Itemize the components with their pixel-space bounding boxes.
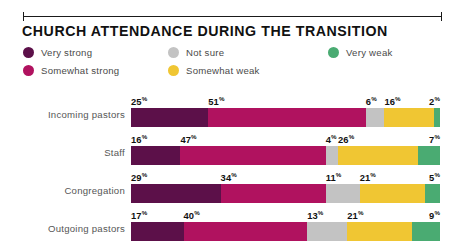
bar-segment[interactable] xyxy=(208,108,366,127)
bar-value-label: 11% xyxy=(326,172,342,183)
bar-row: Staff16%47%4%26%7% xyxy=(0,130,468,166)
bar-value-number: 16 xyxy=(131,134,142,145)
percent-sign: % xyxy=(434,171,440,178)
bar-value-label: 26% xyxy=(338,134,354,145)
bar-segment[interactable] xyxy=(307,222,347,241)
legend-item[interactable]: Somewhat weak xyxy=(168,65,260,76)
bar-value-label: 29% xyxy=(131,172,147,183)
legend-swatch-icon xyxy=(328,47,339,58)
bar-track xyxy=(131,108,440,127)
bar-value-labels: 16%47%4%26%7% xyxy=(131,130,440,146)
legend-item[interactable]: Not sure xyxy=(168,47,224,58)
bar-segment[interactable] xyxy=(184,222,308,241)
bar-segment[interactable] xyxy=(221,184,326,203)
bar-value-label: 4% xyxy=(326,134,337,145)
bar-segment[interactable] xyxy=(360,184,425,203)
bar-segment[interactable] xyxy=(418,146,440,165)
chart-legend: Very strongSomewhat strongNot sureSomewh… xyxy=(23,47,453,83)
bar-value-label: 51% xyxy=(208,96,224,107)
bar-value-number: 17 xyxy=(131,210,142,221)
percent-sign: % xyxy=(371,95,377,102)
percent-sign: % xyxy=(142,133,148,140)
bar-segment[interactable] xyxy=(131,184,221,203)
bar-segment[interactable] xyxy=(347,222,412,241)
bar-value-number: 21 xyxy=(360,172,371,183)
bar-value-label: 13% xyxy=(307,210,323,221)
bar-segment[interactable] xyxy=(131,146,180,165)
percent-sign: % xyxy=(370,171,376,178)
percent-sign: % xyxy=(318,209,324,216)
legend-label: Very strong xyxy=(41,47,92,58)
bar-segment[interactable] xyxy=(131,108,208,127)
bar-value-number: 13 xyxy=(307,210,318,221)
bar-value-label: 9% xyxy=(429,210,440,221)
stacked-bar-chart: Incoming pastors25%51%6%16%2%Staff16%47%… xyxy=(0,92,468,248)
bar-segment[interactable] xyxy=(425,184,440,203)
bar-track xyxy=(131,146,440,165)
bar-segment[interactable] xyxy=(366,108,385,127)
legend-swatch-icon xyxy=(23,47,34,58)
bar-segment[interactable] xyxy=(326,184,360,203)
bar-value-label: 17% xyxy=(131,210,147,221)
percent-sign: % xyxy=(434,95,440,102)
bar-value-number: 21 xyxy=(347,210,358,221)
bar-value-label: 6% xyxy=(366,96,377,107)
bar-segment[interactable] xyxy=(338,146,418,165)
bar-row: Congregation29%34%11%21%5% xyxy=(0,168,468,204)
bar-value-label: 47% xyxy=(180,134,196,145)
bar-value-number: 29 xyxy=(131,172,142,183)
legend-item[interactable]: Very weak xyxy=(328,47,393,58)
percent-sign: % xyxy=(219,95,225,102)
legend-label: Somewhat strong xyxy=(41,65,119,76)
bar-value-label: 25% xyxy=(131,96,147,107)
bar-value-labels: 25%51%6%16%2% xyxy=(131,92,440,108)
percent-sign: % xyxy=(395,95,401,102)
bar-value-label: 7% xyxy=(429,134,440,145)
bar-segment[interactable] xyxy=(326,146,338,165)
percent-sign: % xyxy=(434,133,440,140)
bar-value-labels: 29%34%11%21%5% xyxy=(131,168,440,184)
legend-label: Very weak xyxy=(346,47,393,58)
bar-value-number: 26 xyxy=(338,134,349,145)
bar-value-number: 16 xyxy=(384,96,395,107)
bar-value-labels: 17%40%13%21%9% xyxy=(131,206,440,222)
bar-segment[interactable] xyxy=(180,146,325,165)
bar-segment[interactable] xyxy=(412,222,440,241)
percent-sign: % xyxy=(434,209,440,216)
bar-row-label: Congregation xyxy=(0,185,125,196)
page-title: CHURCH ATTENDANCE DURING THE TRANSITION xyxy=(22,23,388,39)
bar-value-number: 40 xyxy=(184,210,195,221)
bar-row-label: Outgoing pastors xyxy=(0,223,125,234)
percent-sign: % xyxy=(336,171,342,178)
percent-sign: % xyxy=(194,209,200,216)
legend-item[interactable]: Very strong xyxy=(23,47,92,58)
percent-sign: % xyxy=(231,171,237,178)
rule-cap-right-icon xyxy=(441,12,442,21)
bar-value-label: 2% xyxy=(429,96,440,107)
percent-sign: % xyxy=(358,209,364,216)
bar-value-label: 21% xyxy=(347,210,363,221)
bar-value-number: 11 xyxy=(326,172,336,183)
bar-value-label: 34% xyxy=(221,172,237,183)
legend-label: Not sure xyxy=(186,47,224,58)
percent-sign: % xyxy=(142,171,148,178)
title-rule xyxy=(23,12,442,21)
percent-sign: % xyxy=(349,133,355,140)
bar-value-label: 5% xyxy=(429,172,440,183)
legend-swatch-icon xyxy=(23,65,34,76)
legend-swatch-icon xyxy=(168,47,179,58)
bar-value-label: 16% xyxy=(131,134,147,145)
percent-sign: % xyxy=(142,95,148,102)
bar-track xyxy=(131,184,440,203)
bar-segment[interactable] xyxy=(434,108,440,127)
bar-value-number: 25 xyxy=(131,96,142,107)
percent-sign: % xyxy=(191,133,197,140)
rule-line xyxy=(23,16,442,17)
legend-item[interactable]: Somewhat strong xyxy=(23,65,119,76)
bar-value-label: 21% xyxy=(360,172,376,183)
bar-segment[interactable] xyxy=(131,222,184,241)
bar-segment[interactable] xyxy=(384,108,433,127)
bar-row: Outgoing pastors17%40%13%21%9% xyxy=(0,206,468,242)
bar-track xyxy=(131,222,440,241)
legend-label: Somewhat weak xyxy=(186,65,260,76)
